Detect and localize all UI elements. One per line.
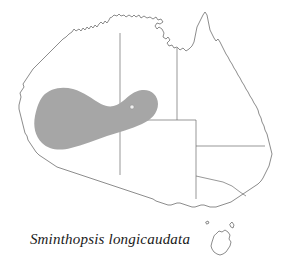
bass-strait-islet-icon [206, 221, 209, 224]
flinders-island-icon [230, 222, 234, 228]
distribution-map-figure: Sminthopsis longicaudata [0, 0, 289, 269]
species-caption: Sminthopsis longicaudata [0, 231, 220, 248]
record-locality-dot [130, 105, 134, 109]
australia-map [0, 0, 289, 269]
